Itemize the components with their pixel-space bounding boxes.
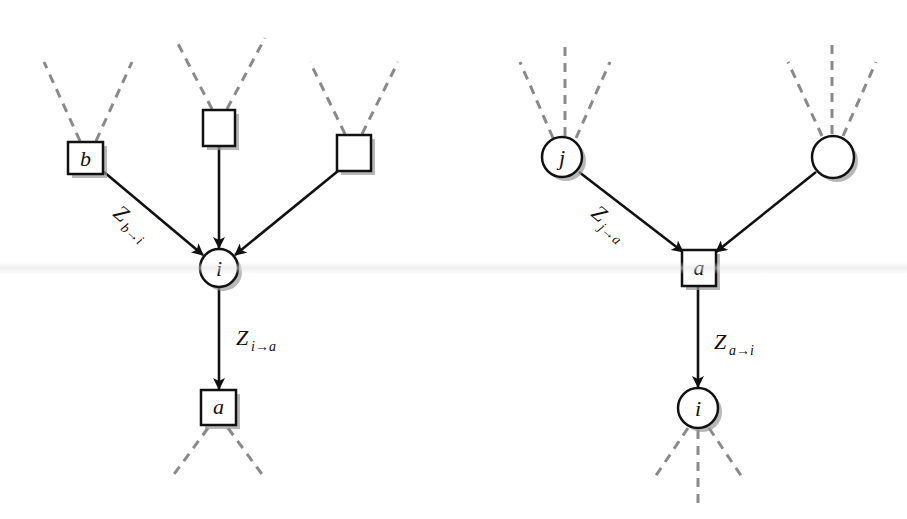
factor-node-top-mid <box>203 110 239 150</box>
left-diagram: b i a <box>44 38 398 477</box>
edge-label-z-b-to-i: Z b→i <box>106 200 155 248</box>
node-label-a: a <box>213 394 224 419</box>
variable-node-i-right: i <box>678 388 722 432</box>
svg-text:a→i: a→i <box>729 343 754 358</box>
edge-label-z-i-to-a: Z i→a <box>236 325 276 354</box>
factor-node-top-right <box>337 135 375 175</box>
node-label-i-right: i <box>695 396 701 421</box>
edge-topright-to-a <box>716 172 816 252</box>
factor-node-b: b <box>68 142 107 178</box>
scan-artifact-band <box>0 262 907 274</box>
svg-text:Z: Z <box>236 325 249 350</box>
variable-node-top-right <box>812 136 858 182</box>
svg-text:b→i: b→i <box>118 220 147 248</box>
factor-node-a: a <box>201 390 240 429</box>
variable-node-j: j <box>542 137 586 181</box>
diagram-canvas: b i a <box>0 0 907 519</box>
edge-topright-to-i <box>235 171 338 255</box>
svg-text:Z: Z <box>714 329 727 354</box>
node-label-b: b <box>80 146 91 171</box>
factor-graph-message-passing-figure: b i a <box>0 0 907 519</box>
svg-text:i→a: i→a <box>251 339 276 354</box>
edge-label-z-a-to-i: Z a→i <box>714 329 754 358</box>
